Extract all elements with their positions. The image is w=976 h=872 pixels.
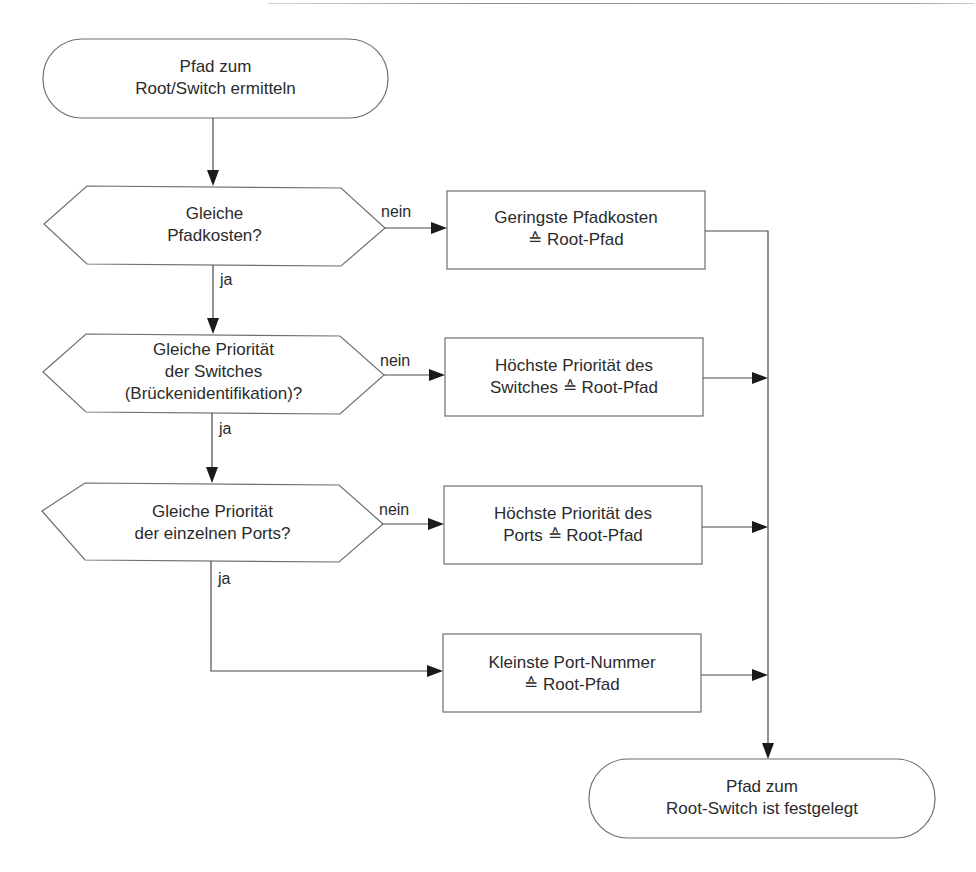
node-result2: Höchste Priorität des Switches ≙ Root-Pf… [445, 355, 703, 399]
connector-decision2-result2 [384, 369, 445, 381]
node-decision3: Gleiche Priorität der einzelnen Ports? [42, 501, 383, 545]
edge-label-decision1-yes: ja [220, 271, 232, 289]
node-decision1-line-2: Pfadkosten? [44, 225, 385, 247]
node-result2-line-2: Switches ≙ Root-Pfad [445, 377, 703, 399]
node-result1: Geringste Pfadkosten ≙ Root-Pfad [447, 207, 705, 251]
node-decision2-line-1: Gleiche Priorität [43, 339, 384, 361]
node-decision2: Gleiche Priorität der Switches (Brückeni… [43, 339, 384, 405]
node-end-line-2: Root-Switch ist festgelegt [589, 798, 935, 820]
node-start: Pfad zum Root/Switch ermitteln [43, 56, 388, 100]
node-result3-line-1: Höchste Priorität des [444, 503, 702, 525]
node-decision3-line-2: der einzelnen Ports? [42, 523, 383, 545]
node-start-line-2: Root/Switch ermitteln [43, 78, 388, 100]
node-result1-line-2: ≙ Root-Pfad [447, 229, 705, 251]
node-decision3-line-1: Gleiche Priorität [42, 501, 383, 523]
connector-decision1-result1 [385, 222, 447, 234]
connector-start-decision1 [207, 118, 219, 186]
node-decision2-line-3: (Brückenidentifikation)? [43, 383, 384, 405]
node-result2-line-1: Höchste Priorität des [445, 355, 703, 377]
node-result4-line-1: Kleinste Port-Nummer [443, 652, 701, 674]
node-decision2-line-2: der Switches [43, 361, 384, 383]
connector-decision3-result3 [383, 518, 444, 530]
node-result1-line-1: Geringste Pfadkosten [447, 207, 705, 229]
connector-decision3-result4 [211, 561, 443, 677]
node-start-line-1: Pfad zum [43, 56, 388, 78]
node-result3: Höchste Priorität des Ports ≙ Root-Pfad [444, 503, 702, 547]
node-decision1: Gleiche Pfadkosten? [44, 203, 385, 247]
node-end-line-1: Pfad zum [589, 776, 935, 798]
edge-label-decision1-no: nein [381, 203, 411, 221]
node-result4-line-2: ≙ Root-Pfad [443, 674, 701, 696]
node-result4: Kleinste Port-Nummer ≙ Root-Pfad [443, 652, 701, 696]
edge-label-decision3-yes: ja [218, 570, 230, 588]
flowchart-canvas [0, 0, 976, 872]
connector-decision2-decision3 [206, 413, 218, 483]
node-decision1-line-1: Gleiche [44, 203, 385, 225]
node-end: Pfad zum Root-Switch ist festgelegt [589, 776, 935, 820]
edge-label-decision2-no: nein [380, 352, 410, 370]
node-result3-line-2: Ports ≙ Root-Pfad [444, 525, 702, 547]
edge-label-decision3-no: nein [379, 501, 409, 519]
edge-label-decision2-yes: ja [219, 420, 231, 438]
connector-results-to-end [701, 231, 774, 759]
connector-decision1-decision2 [207, 265, 219, 334]
